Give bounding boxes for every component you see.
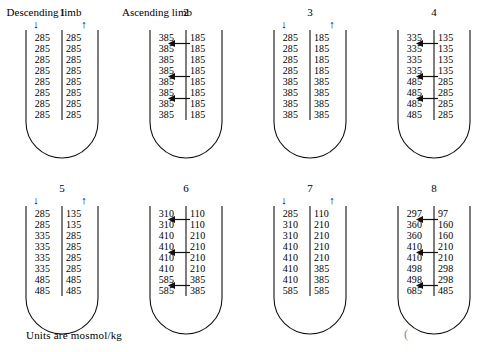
value-row: 285185 <box>248 65 372 76</box>
value-row: 285285 <box>0 98 124 109</box>
loop-panel-4: 4335135335135335135335135485285485285485… <box>372 0 496 176</box>
ascending-limb-value: 97 <box>438 208 466 219</box>
ascending-limb-value: 185 <box>314 65 342 76</box>
osmolality-values: 2851103102103102104102104102104103854103… <box>248 208 372 296</box>
ascending-limb-value: 135 <box>438 65 466 76</box>
value-row: 410210 <box>124 230 248 241</box>
ascending-limb-value: 210 <box>190 252 218 263</box>
ascending-limb-value: 298 <box>438 263 466 274</box>
descending-limb-value: 335 <box>22 241 50 252</box>
descending-limb-value: 285 <box>270 65 298 76</box>
descending-limb-value: 360 <box>394 230 422 241</box>
descending-limb-value: 410 <box>146 241 174 252</box>
ascending-limb-value: 285 <box>66 252 94 263</box>
value-row: 410385 <box>248 263 372 274</box>
descending-limb-value: 585 <box>146 285 174 296</box>
panel-header: 4 <box>372 6 496 32</box>
ascending-limb-value: 385 <box>314 109 342 120</box>
descending-limb-value: 410 <box>146 252 174 263</box>
descending-limb-value: 410 <box>394 241 422 252</box>
descending-limb-value: 285 <box>22 208 50 219</box>
ascending-limb-value: 298 <box>438 274 466 285</box>
ascending-limb-value: 485 <box>66 274 94 285</box>
loop-panel-8: 8297973601603601604102104102104982984982… <box>372 176 496 352</box>
ascending-limb-value: 285 <box>66 65 94 76</box>
panel-row-top: 1↓↑2852852852852852852852852852852852852… <box>0 0 497 176</box>
panel-number: 5 <box>0 182 124 194</box>
panel-number: 4 <box>372 6 496 18</box>
value-row: 585385 <box>124 285 248 296</box>
descending-limb-value: 297 <box>394 208 422 219</box>
descending-limb-value: 385 <box>146 98 174 109</box>
loop-panel-7: 7↓↑2851103102103102104102104102104103854… <box>248 176 372 352</box>
value-row: 410210 <box>372 241 496 252</box>
osmolality-values: 2852852852852852852852852852852852852852… <box>0 32 124 120</box>
value-row: 285185 <box>248 43 372 54</box>
ascending-limb-value: 385 <box>190 274 218 285</box>
descending-limb-value: 585 <box>146 274 174 285</box>
value-row: 485485 <box>0 285 124 296</box>
value-row: 385385 <box>248 109 372 120</box>
value-row: 385385 <box>248 87 372 98</box>
descending-limb-value: 360 <box>394 219 422 230</box>
descending-limb-value: 485 <box>394 76 422 87</box>
ascending-limb-value: 285 <box>66 76 94 87</box>
descending-limb-value: 485 <box>22 285 50 296</box>
value-row: 410210 <box>124 263 248 274</box>
descending-limb-value: 335 <box>394 43 422 54</box>
value-row: 498298 <box>372 263 496 274</box>
panel-number: 7 <box>248 182 372 194</box>
ascending-limb-value: 385 <box>314 76 342 87</box>
value-row: 385185 <box>124 54 248 65</box>
ascending-limb-value: 185 <box>190 76 218 87</box>
value-row: 410210 <box>248 252 372 263</box>
ascending-limb-value: 485 <box>438 285 466 296</box>
descending-limb-value: 385 <box>270 87 298 98</box>
descending-limb-value: 410 <box>394 252 422 263</box>
panel-header: 2 <box>124 6 248 32</box>
value-row: 310110 <box>124 208 248 219</box>
osmolality-values: 2851352851353352853352853352853352854854… <box>0 208 124 296</box>
osmolality-values: 2979736016036016041021041021049829849829… <box>372 208 496 296</box>
ascending-limb-value: 285 <box>438 87 466 98</box>
ascending-limb-value: 185 <box>190 109 218 120</box>
panel-header: 8 <box>372 182 496 208</box>
descending-limb-value: 285 <box>22 76 50 87</box>
descending-limb-value: 385 <box>146 43 174 54</box>
stray-pen-mark: ( <box>404 327 408 340</box>
descending-limb-value: 310 <box>146 219 174 230</box>
descending-limb-value: 485 <box>394 87 422 98</box>
ascending-limb-value: 210 <box>438 241 466 252</box>
panel-number: 6 <box>124 182 248 194</box>
value-row: 410385 <box>248 274 372 285</box>
value-row: 385385 <box>248 98 372 109</box>
value-row: 310110 <box>124 219 248 230</box>
value-row: 385185 <box>124 65 248 76</box>
value-row: 360160 <box>372 219 496 230</box>
descending-limb-value: 385 <box>146 32 174 43</box>
ascending-limb-value: 160 <box>438 219 466 230</box>
panel-row-bottom: 5↓↑2851352851353352853352853352853352854… <box>0 176 497 352</box>
value-row: 285285 <box>0 76 124 87</box>
descending-limb-value: 410 <box>270 252 298 263</box>
ascending-limb-value: 285 <box>66 109 94 120</box>
ascending-limb-value: 135 <box>438 32 466 43</box>
value-row: 310210 <box>248 219 372 230</box>
descending-limb-value: 285 <box>22 219 50 230</box>
descending-limb-value: 410 <box>270 263 298 274</box>
descending-limb-value: 410 <box>270 241 298 252</box>
descending-limb-value: 485 <box>22 274 50 285</box>
value-row: 285135 <box>0 208 124 219</box>
descending-limb-value: 685 <box>394 285 422 296</box>
descending-limb-value: 335 <box>22 230 50 241</box>
value-row: 285285 <box>0 87 124 98</box>
descending-limb-value: 285 <box>270 43 298 54</box>
ascending-limb-value: 135 <box>66 208 94 219</box>
value-row: 410210 <box>248 241 372 252</box>
descending-limb-value: 335 <box>394 54 422 65</box>
value-row: 335135 <box>372 65 496 76</box>
ascending-limb-value: 285 <box>66 54 94 65</box>
osmolality-values: 3851853851853851853851853851853851853851… <box>124 32 248 120</box>
ascending-limb-value: 185 <box>190 87 218 98</box>
ascending-limb-value: 110 <box>190 208 218 219</box>
